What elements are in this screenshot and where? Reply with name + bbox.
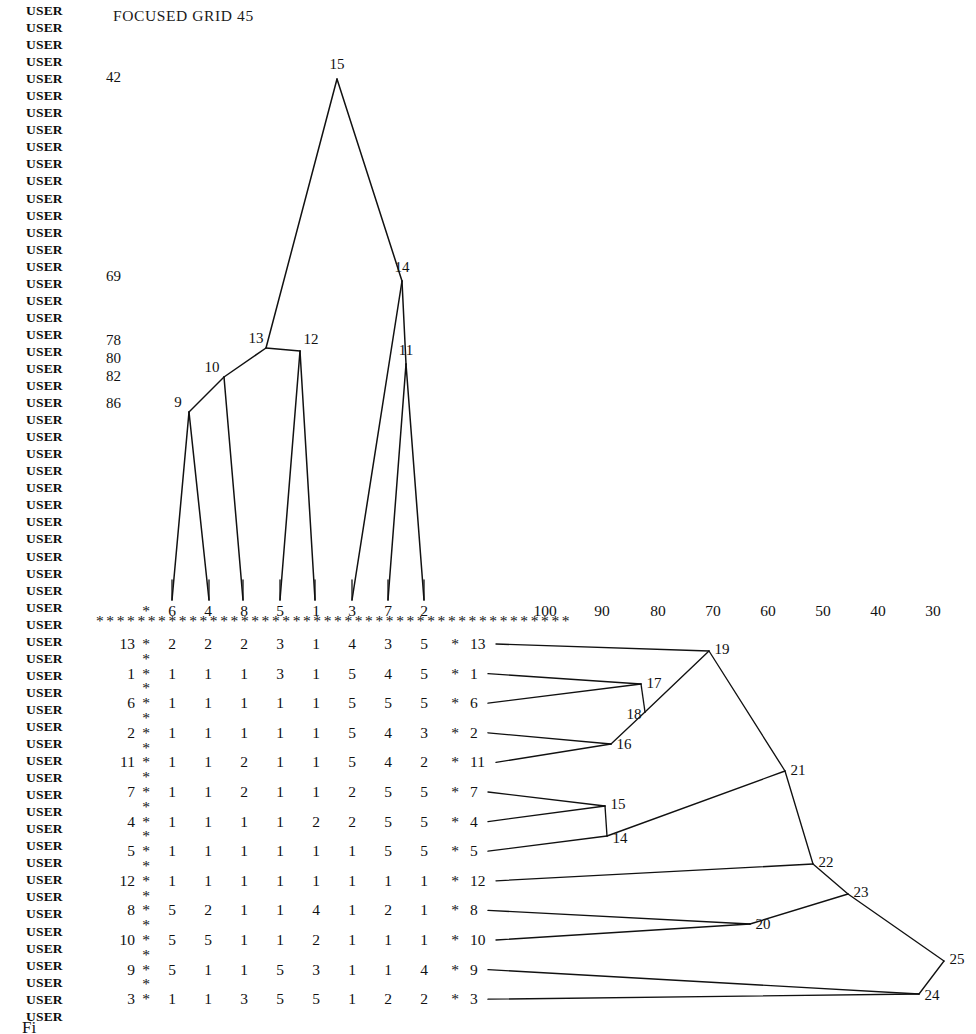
user-marker-row: USER bbox=[26, 599, 88, 616]
user-marker-row: USER bbox=[26, 701, 88, 718]
left-scale-value: 78 bbox=[106, 332, 121, 349]
matrix-cell: 5 bbox=[204, 931, 212, 949]
user-marker-row: USER bbox=[26, 530, 88, 547]
user-marker-row: USER bbox=[26, 991, 88, 1008]
user-marker-row: USER bbox=[26, 513, 88, 530]
matrix-cell: 1 bbox=[276, 753, 284, 771]
matrix-row-star-right: * bbox=[451, 665, 459, 683]
user-marker-row: USER bbox=[26, 905, 88, 922]
matrix-cell: 1 bbox=[240, 724, 248, 742]
user-marker-row: USER bbox=[26, 343, 88, 360]
user-marker-row: USER bbox=[26, 394, 88, 411]
matrix-cell: 5 bbox=[420, 635, 428, 653]
matrix-cell: 1 bbox=[348, 931, 356, 949]
user-marker-row: USER bbox=[26, 667, 88, 684]
user-marker-row: USER bbox=[26, 854, 88, 871]
matrix-row-star-right: * bbox=[451, 724, 459, 742]
matrix-cell: 1 bbox=[240, 931, 248, 949]
user-marker-row: USER bbox=[26, 548, 88, 565]
matrix-row-label-left-9: 9 bbox=[127, 961, 135, 979]
matrix-cell: 2 bbox=[312, 813, 320, 831]
left-scale-value: 82 bbox=[106, 368, 121, 385]
matrix-cell: 1 bbox=[276, 783, 284, 801]
user-marker-row: USER bbox=[26, 871, 88, 888]
matrix-cell: 1 bbox=[348, 901, 356, 919]
user-marker-row: USER bbox=[26, 582, 88, 599]
user-marker-row: USER bbox=[26, 70, 88, 87]
user-marker-row: USER bbox=[26, 940, 88, 957]
matrix-row-label-left-7: 7 bbox=[127, 783, 135, 801]
left-scale-value: 42 bbox=[106, 69, 121, 86]
matrix-row-star-left: * bbox=[142, 990, 150, 1008]
matrix-cell: 3 bbox=[312, 961, 320, 979]
matrix-cell: 1 bbox=[168, 694, 176, 712]
matrix-row-star-right: * bbox=[451, 872, 459, 890]
matrix-cell: 5 bbox=[312, 990, 320, 1008]
matrix-cell: 1 bbox=[240, 842, 248, 860]
tree-node-12: 12 bbox=[304, 331, 319, 348]
matrix-cell: 1 bbox=[348, 872, 356, 890]
top-scale-value: 90 bbox=[594, 602, 610, 620]
user-marker-row: USER bbox=[26, 803, 88, 820]
user-marker-row: USER bbox=[26, 445, 88, 462]
matrix-cell: 4 bbox=[420, 961, 428, 979]
matrix-row-label-right-1: 1 bbox=[470, 665, 478, 683]
matrix-cell: 5 bbox=[384, 842, 392, 860]
matrix-cell: 3 bbox=[276, 635, 284, 653]
user-marker-row: USER bbox=[26, 411, 88, 428]
tree-node-13: 13 bbox=[249, 330, 264, 347]
matrix-cell: 1 bbox=[348, 842, 356, 860]
matrix-cell: 2 bbox=[384, 990, 392, 1008]
matrix-cell: 1 bbox=[240, 961, 248, 979]
matrix-cell: 1 bbox=[348, 990, 356, 1008]
matrix-cell: 1 bbox=[240, 694, 248, 712]
user-marker-row: USER bbox=[26, 224, 88, 241]
tree-node-24: 24 bbox=[925, 987, 940, 1004]
matrix-cell: 3 bbox=[240, 990, 248, 1008]
matrix-cell: 1 bbox=[168, 842, 176, 860]
matrix-row-label-left-13: 13 bbox=[120, 635, 136, 653]
tree-node-19: 19 bbox=[715, 641, 730, 658]
user-marker-row: USER bbox=[26, 496, 88, 513]
matrix-row-label-left-6: 6 bbox=[127, 694, 135, 712]
user-marker-row: USER bbox=[26, 155, 88, 172]
user-marker-row: USER bbox=[26, 974, 88, 991]
user-marker-row: USER bbox=[26, 241, 88, 258]
matrix-cell: 1 bbox=[204, 665, 212, 683]
user-marker-row: USER bbox=[26, 479, 88, 496]
tree-node-10: 10 bbox=[205, 359, 220, 376]
tree-node-21: 21 bbox=[791, 762, 806, 779]
matrix-cell: 5 bbox=[276, 990, 284, 1008]
tree-node-14: 14 bbox=[395, 259, 410, 276]
matrix-cell: 1 bbox=[384, 931, 392, 949]
matrix-cell: 1 bbox=[204, 961, 212, 979]
user-marker-row: USER bbox=[26, 172, 88, 189]
matrix-cell: 5 bbox=[348, 753, 356, 771]
matrix-row-star-right: * bbox=[451, 901, 459, 919]
matrix-cell: 1 bbox=[312, 694, 320, 712]
tree-node-20: 20 bbox=[756, 916, 771, 933]
matrix-cell: 2 bbox=[240, 635, 248, 653]
matrix-row-label-left-1: 1 bbox=[127, 665, 135, 683]
matrix-cell: 1 bbox=[168, 813, 176, 831]
matrix-cell: 1 bbox=[420, 901, 428, 919]
tree-node-16: 16 bbox=[617, 736, 632, 753]
matrix-cell: 5 bbox=[276, 961, 284, 979]
matrix-top-star-rule: ****************************************… bbox=[96, 612, 572, 630]
matrix-cell: 2 bbox=[240, 753, 248, 771]
top-scale-value: 30 bbox=[925, 602, 941, 620]
user-marker-row: USER bbox=[26, 138, 88, 155]
matrix-cell: 1 bbox=[312, 872, 320, 890]
user-marker-row: USER bbox=[26, 309, 88, 326]
matrix-cell: 5 bbox=[420, 694, 428, 712]
user-marker-row: USER bbox=[26, 888, 88, 905]
matrix-cell: 1 bbox=[204, 753, 212, 771]
user-marker-row: USER bbox=[26, 207, 88, 224]
user-marker-row: USER bbox=[26, 718, 88, 735]
page-title: FOCUSED GRID 45 bbox=[113, 7, 254, 25]
matrix-cell: 1 bbox=[204, 872, 212, 890]
top-scale-value: 80 bbox=[650, 602, 666, 620]
top-scale-value: 60 bbox=[760, 602, 776, 620]
user-marker-row: USER bbox=[26, 292, 88, 309]
user-marker-column: USERUSERUSERUSERUSERUSERUSERUSERUSERUSER… bbox=[26, 2, 88, 1025]
